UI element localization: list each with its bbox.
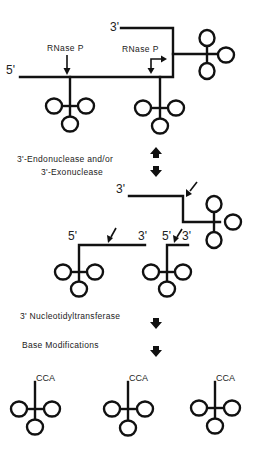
left-five-prime-label: 5' bbox=[68, 229, 77, 243]
cca-label: CCA bbox=[216, 373, 235, 383]
precursor-transcript: 5' 3' RNase P RNase P bbox=[6, 20, 234, 134]
rnase-p-label-left: RNase P bbox=[47, 43, 84, 53]
step2-label: 3' Nucleotidyltransferase bbox=[20, 311, 120, 321]
cleavage-arrow-icon bbox=[186, 182, 197, 197]
cca-label: CCA bbox=[129, 373, 148, 383]
step1-label-line1: 3'-Endonuclease and/or bbox=[17, 154, 113, 164]
left-three-prime-label: 3' bbox=[138, 229, 147, 243]
step3-label: Base Modifications bbox=[22, 340, 99, 350]
down-arrow-icon bbox=[150, 318, 162, 329]
cleavage-arrow-icon bbox=[173, 229, 182, 243]
down-arrow-icon bbox=[150, 346, 162, 357]
trna-cloverleaf-icon bbox=[135, 77, 184, 134]
rnase-p-label-right: RNase P bbox=[122, 44, 159, 54]
mid-three-prime-label: 3' bbox=[182, 229, 191, 243]
cleaved-intermediates: 3' 5' 3' 5' 3' bbox=[55, 182, 241, 297]
bidirectional-arrow-icon bbox=[150, 147, 162, 177]
mature-trna: CCA bbox=[104, 373, 153, 436]
cleavage-arrow-icon bbox=[107, 228, 116, 243]
cleavage-arrow-icon bbox=[64, 55, 71, 75]
mature-trna: CCA bbox=[11, 373, 60, 435]
upper-three-prime-label: 3' bbox=[116, 182, 125, 196]
step1-label-line2: 3'-Exonuclease bbox=[41, 167, 103, 177]
five-prime-label: 5' bbox=[6, 63, 15, 77]
mid-five-prime-label: 5' bbox=[162, 229, 171, 243]
mature-trna: CCA bbox=[191, 373, 240, 434]
bent-cleavage-arrow-icon bbox=[148, 56, 168, 75]
trna-cloverleaf-icon bbox=[46, 77, 94, 132]
tRNA-processing-diagram: 5' 3' RNase P RNase P bbox=[0, 0, 254, 449]
cca-label: CCA bbox=[36, 373, 55, 383]
three-prime-label: 3' bbox=[110, 20, 119, 34]
